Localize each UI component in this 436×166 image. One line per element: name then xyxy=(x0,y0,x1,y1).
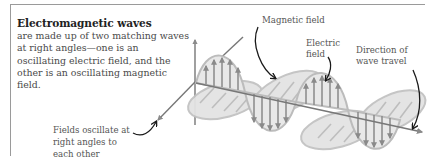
label-fields-2: right angles to xyxy=(53,137,117,148)
label-direction-1: Direction of xyxy=(356,45,408,56)
label-electric-field-1: Electric xyxy=(306,38,340,49)
label-direction-2: wave travel xyxy=(356,56,407,67)
label-magnetic-field: Magnetic field xyxy=(262,15,325,26)
label-fields-1: Fields oscillate at xyxy=(53,125,130,136)
label-fields-3: each other xyxy=(53,149,100,160)
label-electric-field-2: field xyxy=(306,49,325,60)
